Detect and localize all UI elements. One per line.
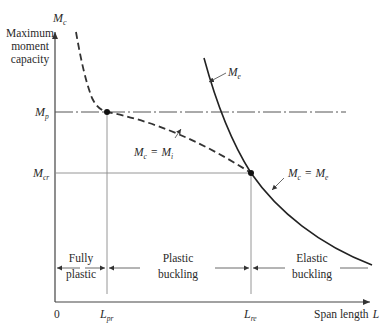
moment-capacity-diagram: Mc Maximum moment capacity Mp Mcr Me Mc=… (0, 0, 387, 327)
region-fully-plastic-line-1: Fully (69, 252, 94, 265)
me-curve-label: Me (227, 66, 242, 81)
y-axis-symbol: Mc (52, 11, 67, 27)
lpr-label: Lpr (99, 307, 113, 323)
point-lre-mcr (248, 170, 254, 176)
x-axis-label: Span lengthL (314, 308, 379, 321)
y-axis-label-line-3: capacity (11, 53, 50, 66)
mcr-label: Mcr (32, 166, 49, 182)
region-fully-plastic-line-2: plastic (66, 268, 96, 281)
region-plastic-buckling-line-2: buckling (158, 268, 198, 281)
y-axis-label-line-2: moment (11, 40, 49, 52)
region-elastic-buckling-line-1: Elastic (296, 252, 327, 264)
origin-label: 0 (54, 308, 60, 320)
mp-label: Mp (34, 105, 49, 121)
region-plastic-buckling-line-1: Plastic (163, 252, 194, 264)
elastic-curve (204, 58, 372, 265)
point-lpr-mp (104, 109, 110, 115)
mi-leader (175, 129, 181, 138)
y-axis-label-line-1: Maximum (6, 27, 54, 39)
region-elastic-buckling-line-2: buckling (292, 268, 332, 281)
lre-label: Lre (243, 307, 257, 323)
mc-me-leader (272, 178, 284, 190)
mc-equals-me-label: Mc=Me (287, 167, 329, 182)
mc-equals-mi-label: Mc=Mi (133, 146, 173, 161)
me-leader (209, 73, 226, 82)
